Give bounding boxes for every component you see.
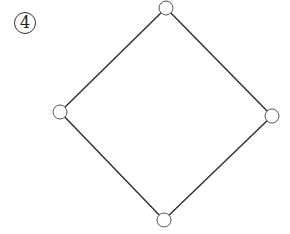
node-top: [159, 1, 173, 15]
edge-left-top: [60, 8, 166, 112]
edge-right-bottom: [164, 116, 272, 220]
node-left: [53, 105, 67, 119]
diamond-graph: [0, 0, 290, 234]
node-right: [265, 109, 279, 123]
edge-top-right: [166, 8, 272, 116]
node-bottom: [157, 213, 171, 227]
edge-bottom-left: [60, 112, 164, 220]
